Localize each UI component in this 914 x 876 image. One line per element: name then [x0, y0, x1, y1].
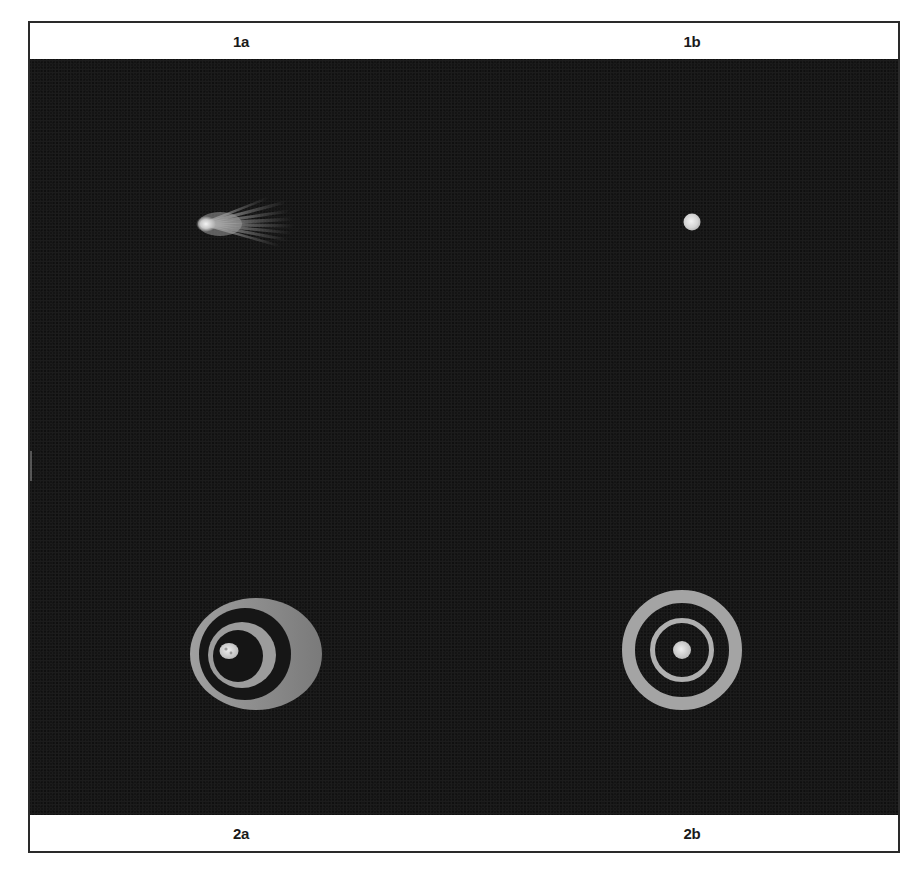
eccentric-rings-2a [190, 598, 322, 710]
comet-object-1a [196, 198, 294, 246]
panel-label-2b: 2b [684, 825, 701, 842]
top-label-band: 1a 1b [30, 23, 898, 59]
panel-label-2a: 2a [233, 825, 249, 842]
black-image-field [30, 59, 898, 817]
concentric-rings-2b [629, 597, 736, 704]
bottom-label-band: 2a 2b [30, 815, 898, 851]
figure-frame: 1a 1b [28, 21, 900, 853]
disk-object-1b [684, 214, 701, 231]
panel-label-1b: 1b [684, 33, 701, 50]
panel-label-1a: 1a [233, 33, 249, 50]
